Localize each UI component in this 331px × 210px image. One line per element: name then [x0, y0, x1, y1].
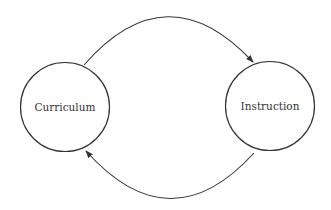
curriculum-label: Curriculum — [35, 101, 96, 113]
instruction-label: Instruction — [241, 100, 300, 112]
arrow-curriculum-to-instruction — [84, 17, 253, 65]
arrow-instruction-to-curriculum — [86, 151, 254, 199]
node-instruction: Instruction — [226, 62, 315, 151]
cycle-diagram: Curriculum Instruction — [0, 0, 331, 210]
node-curriculum: Curriculum — [21, 63, 110, 152]
